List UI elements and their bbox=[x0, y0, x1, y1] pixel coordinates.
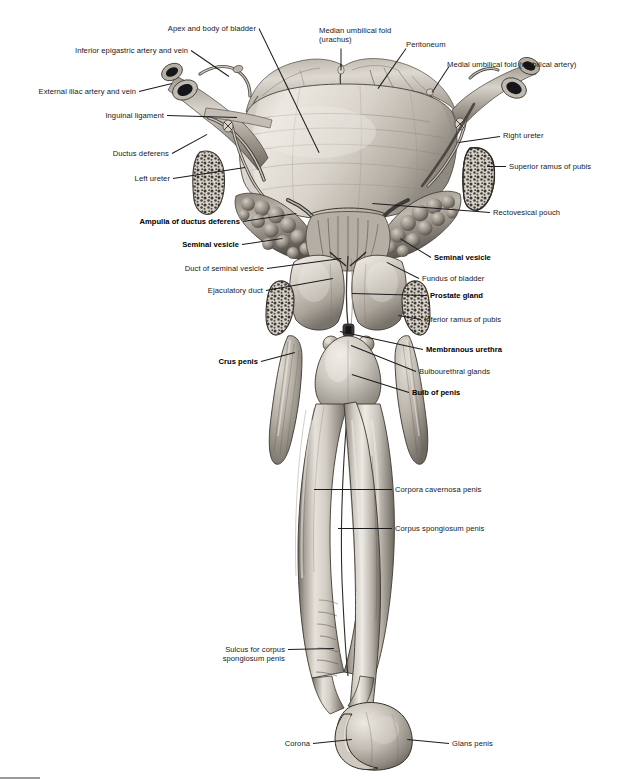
label-fundus-bladder: Fundus of bladder bbox=[422, 274, 484, 283]
label-membranous-urethra: Membranous urethra bbox=[426, 345, 502, 354]
glans-penis bbox=[335, 702, 412, 770]
superior-ramus-of-pubis-left bbox=[193, 151, 225, 214]
label-ejaculatory-duct: Ejaculatory duct bbox=[208, 286, 263, 295]
label-right-ureter: Right ureter bbox=[503, 131, 544, 140]
anatomy-illustration bbox=[0, 0, 629, 779]
label-corpus-spongiosum: Corpus spongiosum penis bbox=[395, 524, 484, 533]
label-ampulla-ductus: Ampulla of ductus deferens bbox=[139, 217, 240, 226]
label-peritoneum: Peritoneum bbox=[406, 40, 446, 49]
label-glans-penis: Glans penis bbox=[452, 739, 493, 748]
label-bulb-penis: Bulb of penis bbox=[412, 388, 460, 397]
label-median-umbilical: Median umbilical fold (urachus) bbox=[319, 26, 391, 45]
label-seminal-vesicle-l: Seminal vesicle bbox=[182, 240, 239, 249]
label-left-ureter: Left ureter bbox=[135, 174, 170, 183]
label-inferior-ramus: Inferior ramus of pubis bbox=[424, 315, 501, 324]
label-inguinal-ligament: Inguinal ligament bbox=[105, 111, 164, 120]
inferior-ramus-of-pubis-right bbox=[402, 281, 430, 335]
corpus-cavernosum-left bbox=[295, 404, 348, 678]
label-external-iliac: External iliac artery and vein bbox=[39, 87, 137, 96]
crus-penis-right bbox=[395, 336, 428, 465]
label-duct-seminal-vesicle: Duct of seminal vesicle bbox=[185, 264, 264, 273]
label-bulbourethral: Bulbourethral glands bbox=[419, 367, 490, 376]
label-apex-body-bladder: Apex and body of bladder bbox=[168, 24, 256, 33]
label-medial-umbilical: Medial umbilical fold (umbilical artery) bbox=[447, 60, 576, 69]
label-rectovesical-pouch: Rectovesical pouch bbox=[493, 208, 560, 217]
leader-corpora-cavernosa bbox=[314, 489, 392, 490]
superior-ramus-of-pubis-right bbox=[463, 148, 495, 211]
label-crus-penis: Crus penis bbox=[219, 357, 258, 366]
label-seminal-vesicle-r: Seminal vesicle bbox=[434, 253, 491, 262]
leader-superior-ramus bbox=[487, 166, 506, 167]
label-corpora-cavernosa: Corpora cavernosa penis bbox=[395, 485, 481, 494]
leader-median-umbilical bbox=[341, 49, 342, 71]
label-inferior-epigastric: Inferior epigastric artery and vein bbox=[75, 46, 188, 55]
label-superior-ramus: Superior ramus of pubis bbox=[509, 162, 591, 171]
anatomical-plate: Apex and body of bladderInferior epigast… bbox=[0, 0, 629, 779]
leader-corpus-spongiosum bbox=[338, 528, 392, 529]
label-sulcus-corpus: Sulcus for corpus spongiosum penis bbox=[223, 645, 285, 664]
label-ductus-deferens: Ductus deferens bbox=[113, 149, 169, 158]
label-corona: Corona bbox=[285, 739, 310, 748]
label-prostate-gland: Prostate gland bbox=[430, 291, 483, 300]
